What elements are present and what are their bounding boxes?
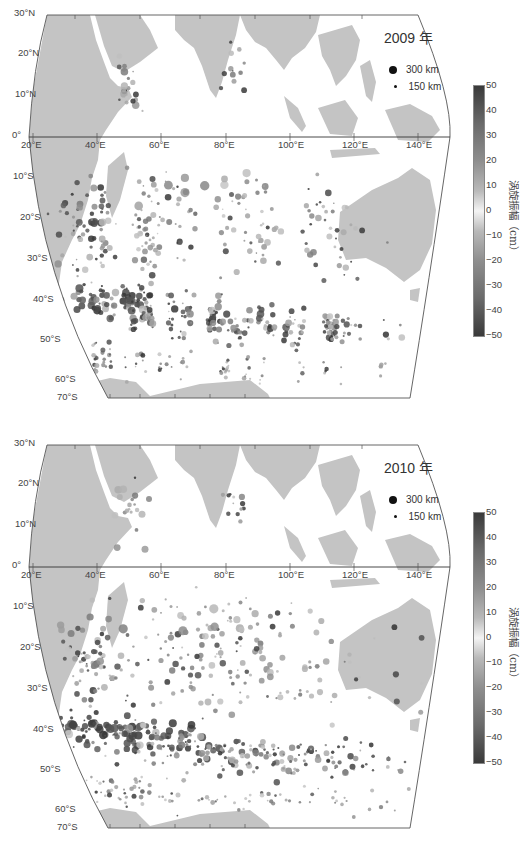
- lon-label: 20°E: [21, 140, 42, 150]
- lat-label: 40°S: [33, 724, 54, 734]
- lat-label: 60°S: [55, 804, 76, 814]
- lat-label: 10°N: [15, 89, 36, 99]
- colorbar-tick: 40: [486, 532, 497, 542]
- size-legend-dot-icon: [394, 85, 397, 88]
- lon-label: 120°E: [342, 140, 368, 150]
- lon-label: 20°E: [21, 570, 42, 580]
- colorbar: [473, 85, 485, 337]
- lat-label: 10°S: [13, 171, 34, 181]
- lat-label: 0°: [12, 130, 21, 140]
- year-label: 2009 年: [384, 27, 433, 47]
- size-legend-small: 150 km: [392, 511, 442, 522]
- lon-label: 140°E: [406, 570, 432, 580]
- lon-label: 40°E: [85, 140, 106, 150]
- colorbar-tick: 10: [486, 607, 497, 617]
- lat-label: 20°N: [18, 478, 39, 488]
- size-legend-label: 300 km: [406, 494, 439, 505]
- colorbar-tick: 40: [486, 105, 497, 115]
- lon-label: 100°E: [278, 570, 304, 580]
- size-legend-dot-icon: [389, 66, 397, 74]
- size-legend-label: 150 km: [409, 81, 442, 92]
- map-canvas: [0, 0, 531, 430]
- lon-label: 60°E: [149, 570, 170, 580]
- size-legend-dot-icon: [389, 496, 397, 504]
- lon-label: 40°E: [85, 570, 106, 580]
- colorbar-tick: 20: [486, 155, 497, 165]
- colorbar-tick: −10: [486, 230, 502, 240]
- lat-label: 40°S: [33, 294, 54, 304]
- lat-label: 30°S: [27, 253, 48, 263]
- lat-label: 70°S: [57, 822, 78, 832]
- colorbar-tick: 30: [486, 557, 497, 567]
- lat-label: 0°: [12, 560, 21, 570]
- lat-label: 20°S: [20, 642, 41, 652]
- colorbar-tick: 50: [486, 507, 497, 517]
- colorbar-title: 涡旋振幅（cm）: [507, 607, 522, 683]
- lat-label: 30°N: [14, 8, 35, 18]
- colorbar-tick: −10: [486, 657, 502, 667]
- size-legend-large: 300 km: [389, 494, 439, 505]
- colorbar-tick: 50: [486, 80, 497, 90]
- year-label: 2010 年: [384, 457, 433, 477]
- lat-label: 70°S: [57, 392, 78, 402]
- lat-label: 30°S: [27, 683, 48, 693]
- colorbar-tick: 30: [486, 130, 497, 140]
- lon-label: 60°E: [149, 140, 170, 150]
- colorbar-tick: −40: [486, 305, 502, 315]
- lat-label: 30°N: [14, 438, 35, 448]
- panel-2009: 30°N20°N10°N0°10°S20°S30°S40°S50°S60°S70…: [0, 0, 531, 430]
- lon-label: 80°E: [214, 140, 235, 150]
- lat-label: 60°S: [55, 374, 76, 384]
- colorbar-tick: −30: [486, 707, 502, 717]
- colorbar-tick: −20: [486, 682, 502, 692]
- colorbar-tick: 0: [486, 205, 491, 215]
- colorbar-tick: −30: [486, 280, 502, 290]
- size-legend-small: 150 km: [392, 81, 442, 92]
- map-canvas: [0, 430, 531, 858]
- colorbar-tick: 0: [486, 632, 491, 642]
- lon-label: 140°E: [406, 140, 432, 150]
- colorbar-tick: 10: [486, 180, 497, 190]
- colorbar-tick: −40: [486, 732, 502, 742]
- lat-label: 10°N: [15, 519, 36, 529]
- lat-label: 20°N: [18, 48, 39, 58]
- colorbar-tick: −20: [486, 255, 502, 265]
- size-legend-dot-icon: [394, 515, 397, 518]
- colorbar: [473, 512, 485, 764]
- panel-2010: 30°N20°N10°N0°10°S20°S30°S40°S50°S60°S70…: [0, 430, 531, 858]
- size-legend-large: 300 km: [389, 64, 439, 75]
- lat-label: 50°S: [40, 334, 61, 344]
- colorbar-tick: −50: [486, 330, 502, 340]
- lat-label: 50°S: [40, 764, 61, 774]
- colorbar-tick: −50: [486, 757, 502, 767]
- lon-label: 100°E: [278, 140, 304, 150]
- lat-label: 20°S: [20, 212, 41, 222]
- lon-label: 80°E: [214, 570, 235, 580]
- size-legend-label: 300 km: [406, 64, 439, 75]
- lat-label: 10°S: [13, 601, 34, 611]
- size-legend-label: 150 km: [409, 511, 442, 522]
- colorbar-title: 涡旋振幅（cm）: [507, 180, 522, 256]
- colorbar-tick: 20: [486, 582, 497, 592]
- lon-label: 120°E: [342, 570, 368, 580]
